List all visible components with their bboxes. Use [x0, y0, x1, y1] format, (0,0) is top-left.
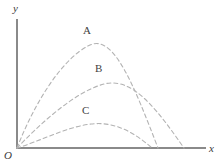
curves-group	[17, 44, 184, 148]
axes-group	[17, 20, 205, 148]
curve-a	[17, 44, 158, 148]
y-axis-label: y	[13, 3, 18, 14]
curve-label-c: C	[82, 105, 89, 116]
x-axis-label: x	[209, 143, 214, 154]
origin-label: O	[4, 150, 12, 161]
curve-b	[17, 83, 184, 148]
curve-label-a: A	[83, 25, 91, 36]
projectile-trajectory-figure: y x O A B C	[0, 0, 221, 168]
plot-canvas	[0, 0, 221, 168]
curve-label-b: B	[95, 63, 102, 74]
